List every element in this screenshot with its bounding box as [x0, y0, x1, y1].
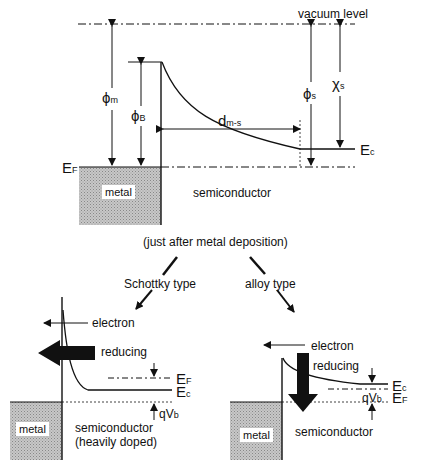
- alloy-qvb-label: qVb: [362, 392, 382, 404]
- schottky-type-label: Schottky type: [124, 278, 196, 290]
- alloy-electron-label: electron: [311, 340, 354, 352]
- schottky-electron-label: electron: [92, 317, 135, 329]
- alloy-reducing-label: reducing: [313, 360, 359, 372]
- schottky-metal-label: metal: [16, 422, 49, 436]
- schottky-semiconductor-label: semiconductor: [75, 422, 153, 434]
- chi-s-label: χs: [332, 76, 344, 91]
- conduction-band-curve: [162, 62, 355, 149]
- alloy-ef-label: EF: [392, 390, 408, 405]
- alloy-type-label: alloy type: [245, 278, 296, 290]
- schottky-heavily-doped-label: (heavily doped): [75, 436, 157, 448]
- ef-label: EF: [62, 160, 78, 175]
- schottky-ec-label: Ec: [176, 384, 191, 399]
- alloy-semiconductor-label: semiconductor: [295, 426, 373, 438]
- phi-m-label: ϕm: [102, 90, 118, 105]
- phi-s-label: ϕs: [303, 86, 316, 101]
- ec-label: Ec: [360, 142, 375, 157]
- alloy-metal-label: metal: [240, 428, 273, 442]
- phi-b-label: ϕB: [131, 108, 145, 123]
- d-m-s-label: dm-s: [218, 113, 241, 128]
- semiconductor-label: semiconductor: [193, 187, 271, 199]
- vacuum-level-label: vacuum level: [298, 8, 368, 20]
- metal-label: metal: [102, 185, 135, 199]
- schottky-reducing-label: reducing: [101, 346, 147, 358]
- schottky-qvb-label: qVb: [159, 408, 179, 420]
- caption: (just after metal deposition): [143, 236, 288, 248]
